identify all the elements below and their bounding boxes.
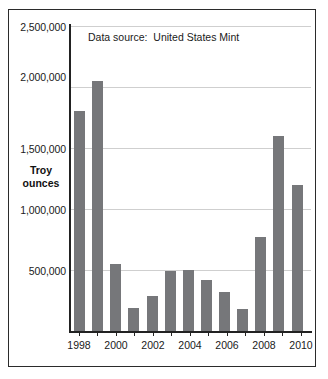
chart-figure: 2,500,000 2,000,000 1,500,000 1,000,000 … (0, 0, 328, 379)
bar-1998 (74, 111, 85, 331)
bar-2001 (128, 308, 139, 331)
bar-2004 (183, 270, 194, 331)
x-tick-label-2010: 2010 (284, 339, 318, 351)
data-source-annotation: Data source: United States Mint (88, 31, 239, 43)
x-tick-2003 (171, 331, 172, 336)
y-axis-line (69, 24, 71, 333)
bar-2000 (110, 264, 121, 331)
y-tick-label-1500000: 1,500,000 (4, 143, 66, 155)
bar-2003 (165, 271, 176, 331)
x-tick-2009 (282, 331, 283, 336)
y-tick-label-2500000: 2,500,000 (4, 21, 66, 33)
x-tick-2004 (190, 331, 191, 336)
y-axis-title-line1: Troy (16, 164, 66, 177)
bar-2010 (292, 185, 303, 331)
x-tick-2001 (134, 331, 135, 336)
x-tick-label-2008: 2008 (247, 339, 281, 351)
bar-1999 (92, 81, 103, 331)
bar-series (70, 26, 311, 331)
bar-2009 (273, 136, 284, 331)
y-axis-title-line2: ounces (16, 177, 66, 190)
y-tick-label-1000000: 1,000,000 (4, 204, 66, 216)
y-tick-label-2000000: 2,000,000 (4, 71, 66, 83)
x-tick-label-2002: 2002 (136, 339, 170, 351)
bar-2006 (219, 292, 230, 331)
x-tick-label-2004: 2004 (173, 339, 207, 351)
x-tick-2005 (208, 331, 209, 336)
x-tick-2000 (116, 331, 117, 336)
x-tick-2007 (245, 331, 246, 336)
y-tick-label-500000: 500,000 (4, 265, 66, 277)
x-tick-label-2000: 2000 (99, 339, 133, 351)
bar-2005 (201, 280, 212, 331)
bar-2008 (255, 237, 266, 331)
bar-2002 (147, 296, 158, 331)
x-tick-2008 (264, 331, 265, 336)
x-tick-2010 (301, 331, 302, 336)
x-tick-2002 (153, 331, 154, 336)
x-tick-1998 (79, 331, 80, 336)
y-axis-title: Troy ounces (16, 164, 66, 190)
x-tick-label-2006: 2006 (210, 339, 244, 351)
x-tick-2006 (227, 331, 228, 336)
x-tick-1999 (97, 331, 98, 336)
bar-2007 (237, 309, 248, 331)
x-tick-label-1998: 1998 (62, 339, 96, 351)
